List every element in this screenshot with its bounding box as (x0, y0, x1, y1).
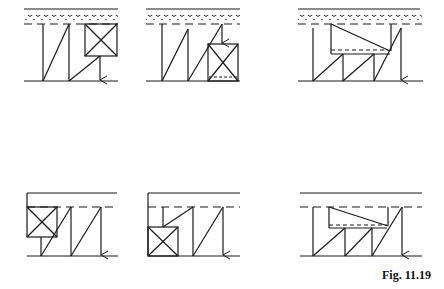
panel-bottom-left (27, 193, 118, 256)
figure-caption: Fig. 11.19 (382, 268, 431, 283)
panel-top-middle (146, 9, 240, 81)
panel-top-right (298, 9, 423, 81)
panel-top-left (24, 9, 118, 81)
truss-diagram-figure (0, 0, 444, 289)
panel-bottom-middle (148, 193, 240, 256)
panel-bottom-right (300, 193, 422, 256)
